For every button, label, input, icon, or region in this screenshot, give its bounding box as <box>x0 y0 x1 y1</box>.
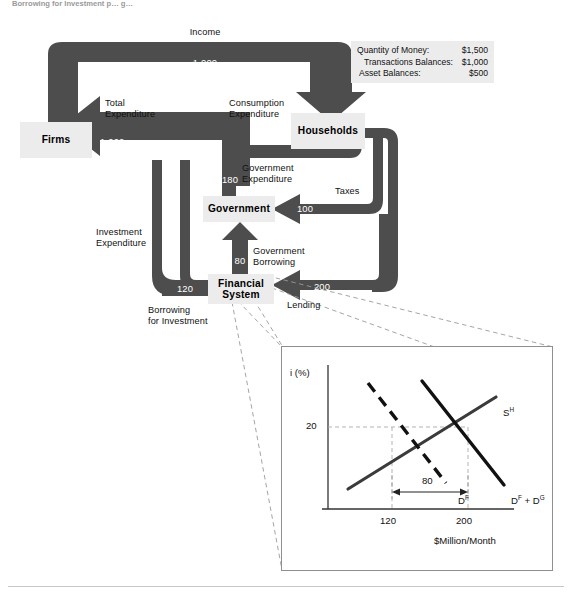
curve-label-dfdg-plus: + <box>522 495 533 506</box>
sector-label-households: Households <box>298 125 358 137</box>
money-value-transactions: $1,000 <box>462 57 488 69</box>
sector-box-firms[interactable]: Firms <box>20 122 92 158</box>
money-value-quantity: $1,500 <box>462 45 488 57</box>
flow-value-taxes: 100 <box>292 203 318 214</box>
inset-chart-panel: i (%) 20 120 200 $Million/Month 80 SH DF… <box>281 346 553 571</box>
curve-label-supply-sh: SH <box>487 395 514 429</box>
money-key-asset: Asset Balances: <box>359 68 421 80</box>
sector-label-firms: Firms <box>42 134 71 146</box>
curve-label-dfdg-sup2: G <box>540 494 545 501</box>
sector-label-government: Government <box>208 203 270 215</box>
flow-value-consumption-expenditure: 700 <box>250 126 284 137</box>
supply-demand-chart <box>282 347 552 570</box>
money-value-asset: $500 <box>469 68 488 80</box>
curve-label-dfdg-base2: D <box>533 495 540 506</box>
flow-value-borrowing-for-investment: 120 <box>168 283 202 294</box>
chart-ylabel: i (%) <box>290 367 310 378</box>
curve-label-demand-df-dg: DF + DG <box>495 483 545 517</box>
flow-label-borrowing-for-investment: Borrowing for Investment <box>148 305 234 327</box>
sector-box-government[interactable]: Government <box>203 196 275 222</box>
money-key-transactions: Transactions Balances: <box>364 57 453 69</box>
money-key-quantity: Quantity of Money: <box>357 45 429 57</box>
flow-label-income: Income <box>160 27 250 38</box>
money-row-transactions: Transactions Balances: $1,000 <box>357 57 488 69</box>
chart-xtick-120: 120 <box>380 515 396 526</box>
curve-label-demand-df: DF <box>442 483 469 517</box>
money-row-quantity: Quantity of Money: $1,500 <box>357 45 488 57</box>
flow-label-government-borrowing: Government Borrowing <box>253 246 329 268</box>
flow-value-government-expenditure: 180 <box>221 174 239 185</box>
curve-label-df-base: D <box>458 495 465 506</box>
diagram-stage: Borrowing for Investment p… g… .flow { f… <box>0 0 574 600</box>
flow-value-income: 1,000 <box>176 57 234 68</box>
sector-box-financial-system[interactable]: Financial System <box>208 274 274 304</box>
flow-label-taxes: Taxes <box>335 186 375 197</box>
curve-label-df-sup: F <box>465 494 469 501</box>
money-row-asset: Asset Balances: $500 <box>357 68 488 80</box>
curve-label-dfdg-base1: D <box>511 495 518 506</box>
chart-ytick-20: 20 <box>306 420 317 431</box>
chart-xlabel: $Million/Month <box>434 535 496 546</box>
sector-label-financial-system: Financial System <box>218 278 264 301</box>
money-quantity-box: Quantity of Money: $1,500 Transactions B… <box>351 41 494 83</box>
flow-value-lending: 200 <box>306 281 338 292</box>
flow-label-total-expenditure: Total Expenditure <box>105 98 175 120</box>
curve-label-supply-sup: H <box>509 406 514 413</box>
footer-rule <box>8 586 564 587</box>
flow-value-total-expenditure: 1,000 <box>100 136 140 147</box>
flow-label-lending: Lending <box>287 300 343 311</box>
chart-annotation-80: 80 <box>422 475 433 486</box>
flow-label-government-expenditure: Government Expenditure <box>242 163 320 185</box>
flow-value-government-borrowing: 80 <box>231 255 249 266</box>
flow-label-investment-expenditure: Investment Expenditure <box>96 227 172 249</box>
flow-label-consumption-expenditure: Consumption Expenditure <box>229 98 303 120</box>
